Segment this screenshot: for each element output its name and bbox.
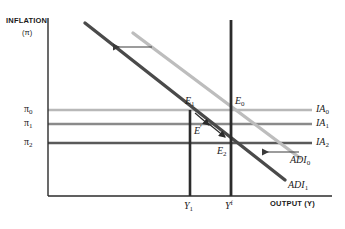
point-label-e2: E2	[217, 146, 227, 156]
x-tick-yf: Yf	[225, 201, 233, 211]
y-tick-pi1: π1	[24, 118, 33, 128]
y-axis-symbol: (π)	[22, 29, 32, 37]
point-label-e-prime: E′	[194, 126, 202, 136]
inflation-output-diagram: INFLATION (π) OUTPUT (Y) π0 π1 π2 Y1 Yf …	[0, 0, 345, 229]
y-axis-title: INFLATION	[6, 17, 47, 25]
y-tick-pi2: π2	[24, 137, 33, 147]
curve-adi0	[133, 33, 300, 158]
curve-label-ia1: IA1	[316, 118, 329, 128]
curve-label-ia0: IA0	[316, 104, 329, 114]
x-axis-title: OUTPUT (Y)	[270, 200, 315, 208]
curve-label-ia2: IA2	[316, 137, 329, 147]
curve-label-adi1: ADI1	[288, 180, 308, 190]
point-label-e0: E0	[235, 96, 245, 106]
curve-label-adi0: ADI0	[290, 155, 310, 165]
x-tick-y1: Y1	[184, 201, 193, 211]
diagram-canvas	[0, 0, 345, 229]
point-label-e1: E1	[185, 96, 195, 106]
y-tick-pi0: π0	[24, 104, 33, 114]
